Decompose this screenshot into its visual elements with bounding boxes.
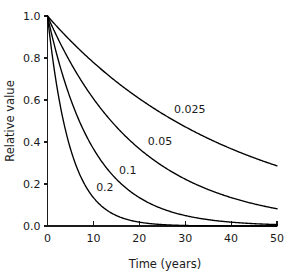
y-tick-label: 0.6 <box>23 94 41 107</box>
y-tick-label: 0.8 <box>23 52 41 65</box>
y-tick-label: 0.4 <box>23 136 41 149</box>
x-tick-label: 20 <box>132 232 146 245</box>
curve-label: 0.1 <box>119 164 137 177</box>
x-tick-label: 0 <box>44 232 51 245</box>
chart-canvas: 0.00.20.40.60.81.0 Relative value 010203… <box>0 0 290 277</box>
y-tick-label: 1.0 <box>23 10 41 23</box>
x-tick-label: 30 <box>178 232 192 245</box>
x-tick-label: 50 <box>270 232 284 245</box>
x-axis-title: Time (years) <box>128 257 201 271</box>
y-axis-title: Relative value <box>3 80 17 161</box>
curve-label: 0.05 <box>148 135 173 148</box>
curve-label: 0.2 <box>96 181 114 194</box>
y-tick-label: 0.2 <box>23 178 41 191</box>
curve-label: 0.025 <box>174 103 206 116</box>
x-tick-label: 10 <box>86 232 100 245</box>
decay-chart: 0.00.20.40.60.81.0 Relative value 010203… <box>0 0 290 277</box>
y-tick-label: 0.0 <box>23 220 41 233</box>
x-tick-label: 40 <box>224 232 238 245</box>
